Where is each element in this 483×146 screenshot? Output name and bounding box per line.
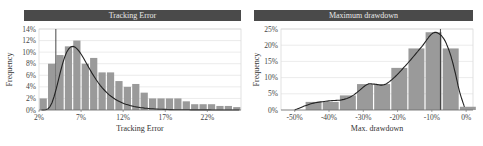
x-tick-label: -30% (355, 113, 371, 122)
y-axis-label: Frequency (252, 53, 261, 87)
x-axis-label: Max. drawdown (351, 124, 403, 133)
x-tick-label: 0% (461, 113, 471, 122)
y-tick-label: 15% (264, 57, 278, 66)
histogram-bar (323, 102, 339, 110)
histogram-bar (357, 84, 373, 110)
histogram-bar (391, 68, 407, 110)
x-tick-label: -20% (389, 113, 405, 122)
y-tick-label: 25% (264, 25, 278, 34)
y-tick-label: 20% (264, 41, 278, 50)
max-drawdown-plot: 0%5%10%15%20%25%-50%-40%-30%-20%-10%0%Ma… (0, 0, 483, 146)
histogram-bar (408, 48, 424, 110)
y-tick-label: 0% (268, 106, 278, 115)
x-tick-label: -10% (424, 113, 440, 122)
y-tick-label: 10% (264, 73, 278, 82)
histogram-bar (374, 84, 390, 110)
histogram-bar (426, 32, 442, 110)
histogram-bar (460, 107, 476, 110)
x-tick-label: -40% (321, 113, 337, 122)
y-tick-label: 5% (268, 89, 278, 98)
x-tick-label: -50% (287, 113, 303, 122)
